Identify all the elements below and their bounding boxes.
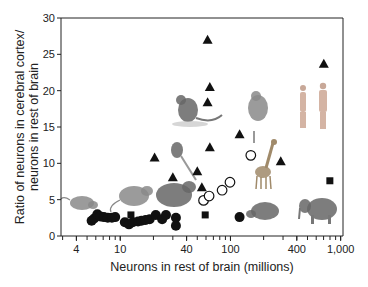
data-point-filled-circle: [235, 212, 245, 222]
x-tick-label: 10: [114, 243, 126, 255]
y-tick-label: 30: [43, 12, 55, 24]
y-axis-title-line1: Ratio of neurons in cerebral cortex/: [13, 29, 27, 224]
data-point-triangle: [150, 153, 160, 162]
x-tick-label: 1,000: [327, 243, 355, 255]
y-axis-title-line2: neurons in rest of brain: [27, 63, 41, 191]
y-tick-label: 0: [49, 230, 55, 242]
data-point-triangle: [205, 82, 215, 91]
data-point-square: [202, 211, 209, 218]
data-point-triangle: [203, 97, 213, 106]
x-tick-label: 4: [73, 243, 79, 255]
data-point-triangle: [235, 129, 245, 138]
data-point-filled-circle: [171, 221, 181, 231]
tree-shrew-image: [171, 142, 196, 180]
y-tick-label: 20: [43, 85, 55, 97]
macaque-image: [248, 91, 268, 143]
elephant-image: [299, 198, 337, 224]
data-point-open-circle: [217, 185, 227, 195]
data-point-triangle: [192, 166, 202, 175]
rat-image: [156, 181, 196, 207]
data-point-triangle: [205, 142, 215, 151]
y-tick-label: 25: [43, 48, 55, 60]
giraffe-image: [255, 139, 277, 189]
x-tick-label: 100: [221, 243, 239, 255]
monkey-image: [172, 95, 222, 127]
data-point-triangle: [203, 35, 213, 44]
capybara-image: [246, 202, 279, 220]
x-tick-label: 40: [180, 243, 192, 255]
mouse-image: [110, 186, 153, 212]
x-axis-ticks: 410401004001,000: [63, 236, 355, 255]
data-point-filled-circle: [110, 212, 120, 222]
shrew-image: [61, 196, 98, 210]
data-point-square: [326, 177, 333, 184]
y-axis-ticks: 051015202530: [43, 12, 61, 242]
data-point-open-circle: [246, 151, 256, 161]
data-point-filled-circle: [161, 210, 171, 220]
humans-image: [300, 83, 327, 129]
data-point-triangle: [197, 182, 207, 191]
y-tick-label: 10: [43, 157, 55, 169]
data-point-triangle: [276, 156, 286, 165]
data-point-open-circle: [204, 191, 214, 201]
data-point-triangle: [319, 59, 329, 68]
x-tick-label: 400: [288, 243, 306, 255]
data-point-open-circle: [225, 177, 235, 187]
y-tick-label: 15: [43, 121, 55, 133]
data-point-square: [127, 211, 134, 218]
data-point-triangle: [168, 172, 178, 181]
y-tick-label: 5: [49, 194, 55, 206]
x-axis-title: Neurons in rest of brain (millions): [110, 260, 293, 274]
scatter-chart: 051015202530 410401004001,000 Neurons in…: [0, 0, 368, 287]
